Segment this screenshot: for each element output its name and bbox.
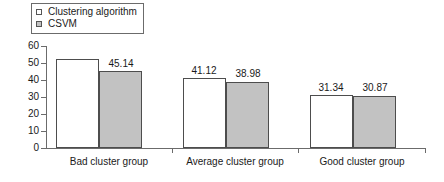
y-axis-tick-50 (41, 63, 46, 64)
x-axis-line (46, 148, 425, 149)
y-axis-label-50: 50 (1, 58, 39, 68)
y-axis-tick-0 (41, 148, 46, 149)
x-axis-label-good-cluster-group: Good cluster group (302, 156, 422, 167)
y-axis-tick-30 (41, 97, 46, 98)
x-axis-label-bad-cluster-group: Bad cluster group (49, 156, 169, 167)
y-axis-label-0: 0 (1, 143, 39, 153)
bar-value-csvm-bad-cluster-group: 45.14 (96, 59, 146, 69)
y-axis-label-30: 30 (1, 92, 39, 102)
x-axis-label-average-cluster-group: Average cluster group (175, 156, 295, 167)
bar-value-csvm-average-cluster-group: 38.98 (223, 69, 273, 79)
y-axis-tick-20 (41, 114, 46, 115)
bar-csvm-average-cluster-group (226, 82, 269, 148)
x-axis-separator-tick-3 (425, 148, 426, 153)
y-axis-label-10-wrap: 10 (0, 126, 39, 136)
x-axis-separator-tick-1 (172, 148, 173, 153)
y-axis-label-10: 10 (1, 126, 39, 136)
y-axis-label-50-wrap: 50 (0, 58, 39, 68)
y-axis-label-60-wrap: 60 (0, 41, 39, 51)
y-axis-tick-10 (41, 131, 46, 132)
y-axis-tick-40 (41, 80, 46, 81)
bar-value-clustering-algorithm-good-cluster-group: 31.34 (306, 83, 356, 93)
y-axis-label-20-wrap: 20 (0, 109, 39, 119)
bar-value-csvm-good-cluster-group: 30.87 (350, 83, 400, 93)
y-axis-label-40-wrap: 40 (0, 75, 39, 85)
y-axis-label-40: 40 (1, 75, 39, 85)
x-axis-separator-tick-2 (298, 148, 299, 153)
y-axis-label-60: 60 (1, 41, 39, 51)
bar-chart: Clustering algorithm CSVM 60 50 40 30 2 (0, 0, 444, 182)
y-axis-tick-60 (41, 46, 46, 47)
bar-clustering-algorithm-good-cluster-group (310, 95, 353, 148)
plot-area: 60 50 40 30 20 10 0 45 (0, 0, 444, 182)
bar-csvm-bad-cluster-group (99, 71, 142, 148)
bar-value-clustering-algorithm-average-cluster-group: 41.12 (179, 66, 229, 76)
bar-clustering-algorithm-bad-cluster-group (56, 59, 99, 148)
y-axis-label-20: 20 (1, 109, 39, 119)
y-axis-label-0-wrap: 0 (0, 143, 39, 153)
y-axis-label-30-wrap: 30 (0, 92, 39, 102)
bar-clustering-algorithm-average-cluster-group (183, 78, 226, 148)
y-axis-line (46, 46, 47, 149)
bar-csvm-good-cluster-group (353, 96, 396, 148)
